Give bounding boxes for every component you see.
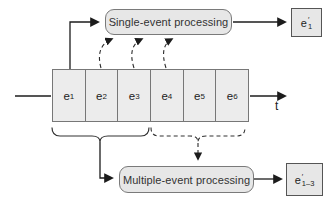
output-e1-3-sub: 1–3 — [302, 180, 315, 187]
dashed-arrow-e4-to-single — [164, 39, 172, 68]
output-e1-3-supsub: ′1–3 — [302, 173, 315, 187]
event-box-e6: e6 — [215, 69, 249, 122]
output-e1-base: e — [301, 17, 307, 29]
dashed-arrow-e3-to-single — [132, 39, 142, 68]
event-label: e — [194, 90, 200, 102]
multiple-event-processing-box: Multiple-event processing — [119, 166, 254, 193]
output-e1-sub: 1 — [308, 23, 312, 30]
single-event-processing-label: Single-event processing — [109, 16, 229, 28]
arrow-e1-to-single — [70, 22, 98, 69]
brace-solid-e1-e3 — [52, 128, 149, 143]
event-label: e — [63, 90, 69, 102]
output-box-e1-3: e′1–3 — [286, 163, 323, 196]
single-event-processing-box: Single-event processing — [105, 9, 232, 35]
output-e1-supsub: ′1 — [308, 16, 312, 30]
event-box-e3: e3 — [117, 69, 151, 122]
event-processing-diagram: Single-event processing e′1 e1 e2 e3 e4 … — [0, 0, 335, 201]
output-e1-3-base: e — [295, 174, 301, 186]
event-label: e — [161, 90, 167, 102]
event-stream: e1 e2 e3 e4 e5 e6 — [52, 69, 249, 122]
arrow-brace-to-multi — [100, 142, 112, 178]
output-box-e1: e′1 — [291, 8, 322, 37]
dashed-arrow-e2-to-single — [99, 39, 112, 68]
event-box-e4: e4 — [150, 69, 184, 122]
time-axis-label: t — [275, 99, 278, 113]
brace-dashed-e4-e6 — [151, 128, 245, 143]
multiple-event-processing-label: Multiple-event processing — [123, 174, 250, 186]
event-box-e5: e5 — [183, 69, 217, 122]
event-box-e2: e2 — [85, 69, 119, 122]
event-box-e1: e1 — [52, 69, 86, 122]
